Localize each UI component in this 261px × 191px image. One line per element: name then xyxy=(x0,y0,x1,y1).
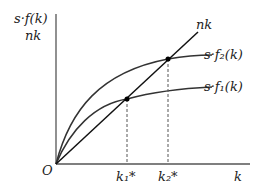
s-f2-label: s·f₂(k) xyxy=(204,48,243,61)
k2-star-label: k₂* xyxy=(158,170,178,183)
s-f1-label: s·f₁(k) xyxy=(204,80,243,93)
y-axis-label-2: nk xyxy=(25,29,41,42)
origin-label: O xyxy=(42,164,53,177)
steady-state-1-dot xyxy=(125,97,130,102)
k1-star-label: k₁* xyxy=(116,170,136,183)
y-axis-label-1: s·f(k) xyxy=(14,12,48,25)
nk-label: nk xyxy=(196,18,212,31)
steady-state-2-dot xyxy=(166,57,171,62)
curve-s-f1 xyxy=(56,87,212,164)
curve-s-f2 xyxy=(56,55,212,164)
x-axis-label: k xyxy=(234,170,242,183)
